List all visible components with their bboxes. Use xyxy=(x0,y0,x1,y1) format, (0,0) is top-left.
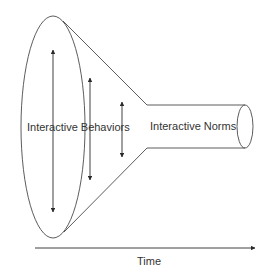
interactive-norms-label: Interactive Norms xyxy=(150,120,237,132)
tube-end-ellipse xyxy=(237,105,253,148)
funnel-bottom-edge xyxy=(64,148,147,232)
time-axis-label: Time xyxy=(137,255,161,267)
funnel-diagram: Interactive Behaviors Interactive Norms … xyxy=(0,0,269,278)
interactive-behaviors-label: Interactive Behaviors xyxy=(27,121,130,133)
funnel-top-edge xyxy=(63,21,147,105)
